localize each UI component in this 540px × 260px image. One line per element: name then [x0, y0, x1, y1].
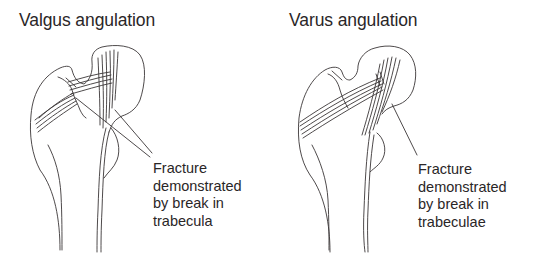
femur-outline	[298, 46, 415, 252]
annotation-line: by break in	[153, 195, 242, 213]
leader-line	[392, 104, 417, 155]
panel-varus: Varus angulation Fracture demon	[270, 0, 540, 260]
annotation-line: trabecula	[153, 213, 242, 231]
annotation-line: trabeculae	[418, 214, 507, 232]
leader-line-1	[76, 98, 150, 157]
lesser-trochanter	[370, 133, 385, 172]
lesser-trochanter	[104, 128, 119, 178]
lateral-cortex-outer	[368, 135, 374, 252]
annotation-line: by break in	[418, 196, 507, 214]
annotation-line: demonstrated	[153, 178, 242, 196]
annotation-valgus: Fracture demonstrated by break in trabec…	[153, 160, 242, 230]
panel-valgus: Valgus angulation Fr	[0, 0, 270, 260]
annotation-line: Fracture	[418, 161, 507, 179]
medial-cortex	[312, 145, 329, 250]
annotation-line: Fracture	[153, 160, 242, 178]
annotation-varus: Fracture demonstrated by break in trabec…	[418, 161, 507, 231]
annotation-line: demonstrated	[418, 179, 507, 197]
leader-line-2	[115, 110, 152, 153]
